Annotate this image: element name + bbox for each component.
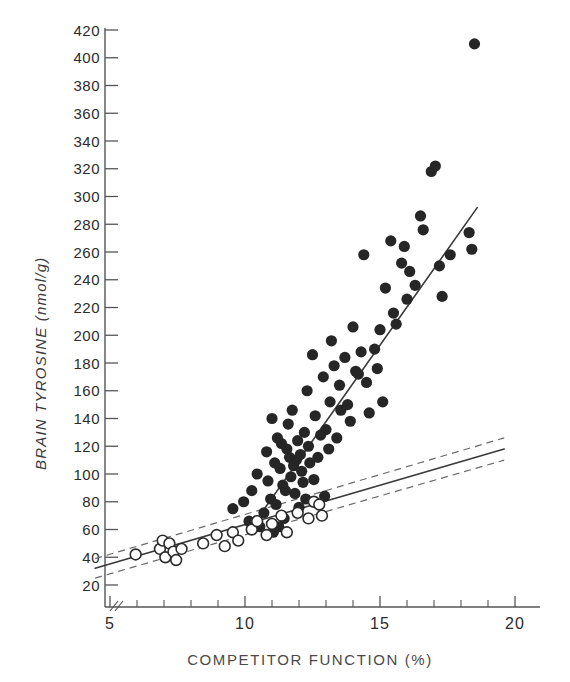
filled-circle-point xyxy=(329,360,340,371)
y-tick-label-280: 280 xyxy=(73,216,100,233)
filled-circle-point xyxy=(246,485,257,496)
filled-circle-point xyxy=(324,396,335,407)
filled-circle-point xyxy=(369,344,380,355)
open-circle-point xyxy=(198,538,209,549)
filled-circle-point xyxy=(415,210,426,221)
filled-circle-point xyxy=(377,396,388,407)
y-tick-label-340: 340 xyxy=(73,133,100,150)
filled-circle-point xyxy=(308,474,319,485)
filled-circle-point xyxy=(252,468,263,479)
y-tick-label-140: 140 xyxy=(73,410,100,427)
y-tick-label-200: 200 xyxy=(73,327,100,344)
filled-circle-point xyxy=(430,160,441,171)
filled-circle-point xyxy=(445,249,456,260)
filled-circle-point xyxy=(289,488,300,499)
x-axis-title: COMPETITOR FUNCTION (%) xyxy=(187,651,433,668)
y-tick-label-240: 240 xyxy=(73,271,100,288)
y-tick-label-120: 120 xyxy=(73,438,100,455)
filled-circle-point xyxy=(295,449,306,460)
filled-circle-point xyxy=(270,499,281,510)
y-tick-label-100: 100 xyxy=(73,466,100,483)
y-tick-label-80: 80 xyxy=(82,493,100,510)
filled-circle-point xyxy=(347,321,358,332)
scatter-plot-figure: 2040608010012014016018020022024026028030… xyxy=(0,0,570,682)
filled-circle-point xyxy=(262,475,273,486)
open-circle-point xyxy=(292,507,303,518)
y-tick-label-20: 20 xyxy=(82,577,100,594)
filled-circle-point xyxy=(334,380,345,391)
filled-circle-point xyxy=(404,266,415,277)
open-circle-point xyxy=(211,530,222,541)
filled-circle-point xyxy=(287,405,298,416)
filled-circle-point xyxy=(320,424,331,435)
filled-circle-point xyxy=(339,352,350,363)
open-circle-point xyxy=(219,541,230,552)
filled-circle-point xyxy=(410,280,421,291)
open-circle-point xyxy=(171,555,182,566)
filled-circle-point xyxy=(312,452,323,463)
filled-circle-point xyxy=(299,427,310,438)
filled-circle-point xyxy=(303,441,314,452)
y-tick-label-320: 320 xyxy=(73,160,100,177)
filled-circle-point xyxy=(323,443,334,454)
filled-circle-point xyxy=(391,319,402,330)
y-tick-label-420: 420 xyxy=(73,22,100,39)
filled-circle-point xyxy=(437,291,448,302)
filled-circle-point xyxy=(372,363,383,374)
filled-circle-point xyxy=(401,294,412,305)
filled-circle-point xyxy=(296,466,307,477)
filled-circle-point xyxy=(285,471,296,482)
y-tick-label-360: 360 xyxy=(73,105,100,122)
filled-circle-point xyxy=(283,418,294,429)
open-circle-point xyxy=(317,510,328,521)
filled-circle-point xyxy=(318,371,329,382)
filled-circle-point xyxy=(358,249,369,260)
filled-circle-point xyxy=(238,496,249,507)
y-tick-label-40: 40 xyxy=(82,549,100,566)
open-circle-point xyxy=(176,544,187,555)
y-tick-label-160: 160 xyxy=(73,382,100,399)
filled-circle-point xyxy=(302,385,313,396)
filled-circle-point xyxy=(342,399,353,410)
filled-circle-point xyxy=(280,485,291,496)
filled-circle-point xyxy=(307,349,318,360)
open-circle-point xyxy=(267,519,278,530)
filled-circle-point xyxy=(227,503,238,514)
x-tick-label-15: 15 xyxy=(370,615,390,632)
x-tick-label-5: 5 xyxy=(105,615,115,632)
open-circle-point xyxy=(314,499,325,510)
filled-circle-point xyxy=(361,377,372,388)
filled-circle-point xyxy=(266,413,277,424)
filled-circle-point xyxy=(466,244,477,255)
filled-circle-point xyxy=(297,477,308,488)
filled-circle-point xyxy=(469,38,480,49)
filled-circle-point xyxy=(345,416,356,427)
y-tick-label-260: 260 xyxy=(73,244,100,261)
filled-circle-point xyxy=(464,227,475,238)
filled-circle-point xyxy=(396,258,407,269)
x-tick-label-10: 10 xyxy=(235,615,255,632)
y-tick-label-400: 400 xyxy=(73,49,100,66)
y-tick-label-300: 300 xyxy=(73,188,100,205)
open-circle-point xyxy=(281,527,292,538)
y-tick-label-220: 220 xyxy=(73,299,100,316)
filled-circle-point xyxy=(310,410,321,421)
y-tick-label-180: 180 xyxy=(73,355,100,372)
filled-circle-point xyxy=(388,307,399,318)
filled-circle-point xyxy=(326,335,337,346)
open-circle-point xyxy=(303,513,314,524)
y-tick-label-60: 60 xyxy=(82,521,100,538)
filled-circle-point xyxy=(418,224,429,235)
filled-circle-point xyxy=(261,446,272,457)
filled-circle-point xyxy=(380,282,391,293)
y-tick-label-380: 380 xyxy=(73,77,100,94)
filled-circle-point xyxy=(374,324,385,335)
open-circle-point xyxy=(261,530,272,541)
filled-circle-point xyxy=(331,432,342,443)
filled-circle-point xyxy=(353,369,364,380)
filled-circle-point xyxy=(434,260,445,271)
filled-circle-point xyxy=(356,346,367,357)
open-circle-point xyxy=(130,549,141,560)
x-tick-label-20: 20 xyxy=(505,615,525,632)
open-circle-point xyxy=(276,510,287,521)
